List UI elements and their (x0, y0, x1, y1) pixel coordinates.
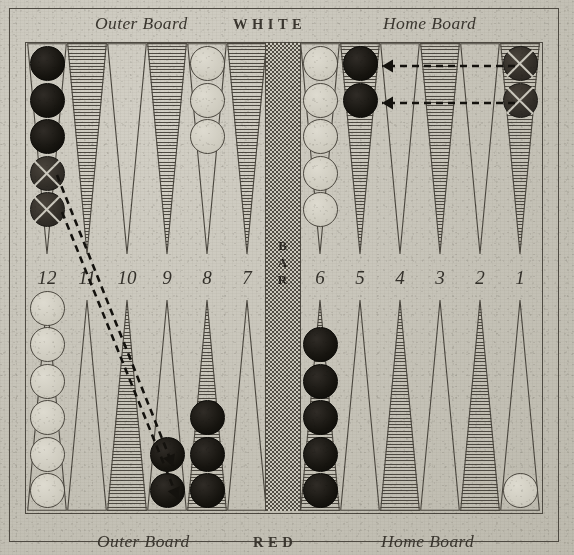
point-outline (107, 43, 147, 255)
point-outline (67, 299, 107, 511)
checker-top-12-1[interactable] (30, 46, 65, 81)
checker-bottom-6-1[interactable] (303, 473, 338, 508)
point-outline (67, 43, 107, 255)
point-bottom-3[interactable] (420, 299, 460, 511)
checker-top-12-4[interactable] (30, 156, 65, 191)
checker-bottom-12-4[interactable] (30, 364, 65, 399)
point-outline (340, 299, 380, 511)
point-bottom-2[interactable] (460, 299, 500, 511)
point-bottom-4[interactable] (380, 299, 420, 511)
checker-top-1-1[interactable] (503, 46, 538, 81)
caption-top-home-board: Home Board (383, 13, 476, 34)
point-bottom-7[interactable] (227, 299, 267, 511)
point-number-3: 3 (420, 267, 460, 289)
point-outline (227, 43, 267, 255)
checker-top-5-2[interactable] (343, 83, 378, 118)
checker-bottom-6-4[interactable] (303, 364, 338, 399)
checker-bottom-12-5[interactable] (30, 327, 65, 362)
checker-top-6-3[interactable] (303, 119, 338, 154)
point-number-11: 11 (67, 267, 107, 289)
checker-bottom-6-3[interactable] (303, 400, 338, 435)
checker-top-6-2[interactable] (303, 83, 338, 118)
checker-bottom-12-6[interactable] (30, 291, 65, 326)
point-number-9: 9 (147, 267, 187, 289)
checker-top-12-3[interactable] (30, 119, 65, 154)
backgammon-diagram: Outer Board WHITE Home Board Outer Board… (0, 0, 574, 555)
checker-bottom-12-1[interactable] (30, 473, 65, 508)
checker-bottom-8-2[interactable] (190, 437, 225, 472)
point-outline (420, 43, 460, 255)
checker-top-8-2[interactable] (190, 83, 225, 118)
checker-top-1-2[interactable] (503, 83, 538, 118)
point-number-12: 12 (27, 267, 67, 289)
point-top-9[interactable] (147, 43, 187, 255)
point-number-8: 8 (187, 267, 227, 289)
point-bottom-5[interactable] (340, 299, 380, 511)
point-outline (107, 299, 147, 511)
point-top-3[interactable] (420, 43, 460, 255)
point-number-7: 7 (227, 267, 267, 289)
point-top-10[interactable] (107, 43, 147, 255)
point-number-1: 1 (500, 267, 540, 289)
point-outline (460, 43, 500, 255)
caption-top-player-white: WHITE (233, 16, 306, 33)
checker-top-6-5[interactable] (303, 192, 338, 227)
caption-bottom-outer-board: Outer Board (97, 531, 190, 552)
bar-label: BAR (265, 228, 299, 298)
checker-bottom-12-2[interactable] (30, 437, 65, 472)
point-top-4[interactable] (380, 43, 420, 255)
point-number-6: 6 (300, 267, 340, 289)
checker-top-6-4[interactable] (303, 156, 338, 191)
point-top-11[interactable] (67, 43, 107, 255)
point-outline (227, 299, 267, 511)
point-outline (380, 43, 420, 255)
point-top-7[interactable] (227, 43, 267, 255)
point-number-10: 10 (107, 267, 147, 289)
point-outline (460, 299, 500, 511)
point-outline (420, 299, 460, 511)
caption-bottom-player-red: RED (253, 534, 297, 551)
checker-bottom-12-3[interactable] (30, 400, 65, 435)
checker-bottom-6-5[interactable] (303, 327, 338, 362)
checker-bottom-9-2[interactable] (150, 437, 185, 472)
checker-bottom-6-2[interactable] (303, 437, 338, 472)
point-number-5: 5 (340, 267, 380, 289)
point-number-2: 2 (460, 267, 500, 289)
point-outline (380, 299, 420, 511)
point-outline (147, 43, 187, 255)
checker-top-6-1[interactable] (303, 46, 338, 81)
point-bottom-10[interactable] (107, 299, 147, 511)
checker-top-5-1[interactable] (343, 46, 378, 81)
caption-top-outer-board: Outer Board (95, 13, 188, 34)
checker-top-12-5[interactable] (30, 192, 65, 227)
point-number-4: 4 (380, 267, 420, 289)
point-bottom-11[interactable] (67, 299, 107, 511)
caption-bottom-home-board: Home Board (381, 531, 474, 552)
checker-bottom-1-1[interactable] (503, 473, 538, 508)
checker-top-8-3[interactable] (190, 119, 225, 154)
checker-bottom-9-1[interactable] (150, 473, 185, 508)
point-top-2[interactable] (460, 43, 500, 255)
checker-top-12-2[interactable] (30, 83, 65, 118)
checker-top-8-1[interactable] (190, 46, 225, 81)
checker-bottom-8-3[interactable] (190, 400, 225, 435)
checker-bottom-8-1[interactable] (190, 473, 225, 508)
